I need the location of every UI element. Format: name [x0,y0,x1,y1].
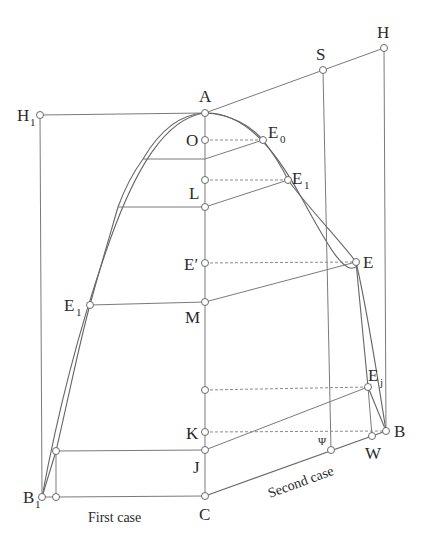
line-H1-B1 [40,115,42,497]
point-K-upper [202,387,209,394]
point-E1-left [87,302,94,309]
label-K: K [186,424,199,443]
point-L-upper [202,177,209,184]
point-W [369,433,376,440]
point-E1-right [285,177,292,184]
label-E1-right-sub: 1 [304,179,310,191]
parabola-construction-diagram: A O E 0 E 1 L E′ E M E 1 E j K J Ψ W B C… [0,0,422,555]
point-H [381,45,388,52]
point-M [202,299,209,306]
caption-second-case: Second case [266,463,336,501]
chord-left-J [56,450,205,451]
label-E0: E [268,123,278,142]
point-B [383,428,390,435]
label-Ej-sub: j [379,376,383,388]
point-Psi [328,447,335,454]
label-H1-sub: 1 [30,116,36,128]
label-C: C [199,505,210,524]
parabola-right-branch [205,113,386,431]
line-H1-A [40,113,205,115]
point-S [320,67,327,74]
point-J [202,447,209,454]
label-B1-sub: 1 [35,498,41,510]
label-Ej: E [368,366,378,385]
chord-left-M [90,302,205,305]
point-O [202,137,209,144]
label-E1-left: E [64,296,74,315]
caption-first-case: First case [88,510,141,525]
label-E1-left-sub: 1 [76,306,82,318]
label-B1: B [23,488,34,507]
point-E-prime [202,260,209,267]
point-C [202,493,209,500]
label-S: S [316,45,325,64]
dash-Eprime-E [205,262,356,263]
point-J-left [53,448,60,455]
dash-K-B [205,431,386,432]
dash-Kupper-Ej [205,387,368,390]
point-L [202,204,209,211]
label-L: L [189,184,199,203]
label-A: A [199,87,212,106]
label-B: B [394,422,405,441]
chord-left-C [56,496,205,497]
label-E-prime: E′ [184,255,198,274]
label-W: W [365,444,382,463]
label-H: H [377,23,389,42]
point-A [202,110,209,117]
label-Psi: Ψ [318,435,327,447]
point-K [202,429,209,436]
label-E1-right: E [292,169,302,188]
line-A-H [205,48,384,113]
line-S-Psi [323,70,331,450]
slant-159-E0 [205,140,263,159]
label-O: O [186,131,198,150]
label-J: J [193,458,200,477]
point-E0 [260,137,267,144]
label-H1: H [17,106,29,125]
label-E: E [363,253,373,272]
slant-M-E [205,262,356,302]
slant-J-Ej [205,387,368,450]
point-H1 [37,112,44,119]
line-H-B [384,48,386,431]
point-B1-right [53,494,60,501]
label-M: M [185,308,200,327]
point-E [353,259,360,266]
label-E0-sub: 0 [280,133,286,145]
slant-L-E1 [205,180,288,207]
